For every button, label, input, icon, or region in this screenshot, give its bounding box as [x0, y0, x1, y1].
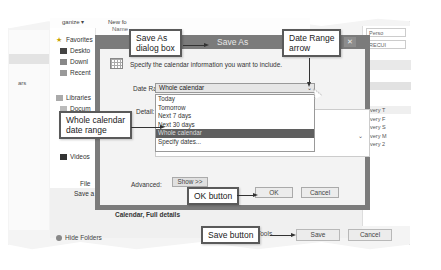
- nav-libraries[interactable]: Libraries: [56, 94, 91, 101]
- callout-ok-button: OK button: [187, 187, 239, 205]
- callout-line: [237, 195, 254, 196]
- date-range-option-next-7-days[interactable]: Next 7 days: [156, 112, 314, 121]
- arrow-down-icon: [307, 82, 311, 87]
- callout-save-button: Save button: [201, 226, 260, 244]
- nav-recent[interactable]: Recent: [60, 69, 91, 76]
- recent-icon: [60, 70, 67, 76]
- detail-label: Detail:: [136, 108, 154, 115]
- libraries-icon: [56, 95, 63, 101]
- folder-navigation-tree: ★ Favorites Deskto Downl Recent Librarie…: [50, 28, 96, 188]
- outer-nav-partial-label: ars: [18, 80, 26, 86]
- date-range-option-next-30-days[interactable]: Next 30 days: [156, 121, 314, 130]
- save-as-type-label: Save a: [74, 190, 94, 197]
- hide-folders-toggle[interactable]: Hide Folders: [56, 234, 102, 241]
- callout-date-range-arrow: Date Range arrow: [282, 29, 341, 57]
- desktop-icon: [60, 48, 67, 54]
- date-range-option-specify-dates[interactable]: Specify dates...: [156, 138, 314, 147]
- nav-desktop[interactable]: Deskto: [60, 47, 90, 54]
- arrow-right-icon: [291, 233, 296, 237]
- right-pane-field-2[interactable]: RECUI: [366, 40, 406, 49]
- show-advanced-button[interactable]: Show >>: [172, 177, 208, 187]
- videos-icon: [60, 154, 67, 160]
- right-pane-field-1[interactable]: Perso: [366, 28, 406, 37]
- calendar-icon: [110, 58, 123, 69]
- nav-favorites[interactable]: ★ Favorites: [56, 36, 93, 43]
- arrow-right-icon: [160, 125, 165, 129]
- right-pane-band: [363, 82, 411, 90]
- callout-whole-calendar-date-range: Whole calendar date range: [59, 111, 132, 139]
- callout-line: [309, 58, 310, 82]
- star-icon: ★: [56, 37, 63, 43]
- date-range-option-tomorrow[interactable]: Tomorrow: [156, 104, 314, 113]
- explorer-toolbar: ganize ▾ New fo: [62, 18, 149, 25]
- new-folder-button[interactable]: New fo: [108, 19, 127, 25]
- dialog-description: Specify the calendar information you wan…: [130, 61, 282, 68]
- right-pane-band: [363, 60, 411, 70]
- arrow-right-icon: [253, 193, 258, 197]
- downloads-icon: [60, 59, 67, 65]
- outer-navigation-pane: ars: [9, 30, 49, 230]
- dialog-cancel-button[interactable]: Cancel: [301, 187, 339, 198]
- callout-line: [270, 235, 292, 236]
- close-icon[interactable]: ✕: [344, 37, 356, 47]
- arrow-right-icon: [204, 43, 209, 47]
- advanced-label: Advanced:: [131, 181, 162, 188]
- chevron-down-icon[interactable]: ⌄: [358, 132, 363, 139]
- date-range-dropdown-list: Today Tomorrow Next 7 days Next 30 days …: [155, 94, 315, 152]
- callout-line: [183, 45, 205, 46]
- callout-save-as-dialog: Save As dialog box: [129, 29, 182, 57]
- date-range-option-today[interactable]: Today: [156, 95, 314, 104]
- save-as-dialog: Save As ✕ Specify the calendar informati…: [95, 35, 370, 210]
- callout-line: [131, 127, 161, 128]
- outer-selected-row: [9, 54, 49, 64]
- nav-videos[interactable]: Videos: [60, 153, 90, 160]
- cancel-button[interactable]: Cancel: [348, 229, 392, 241]
- organize-menu[interactable]: ganize ▾: [62, 19, 84, 25]
- save-button[interactable]: Save: [296, 229, 340, 241]
- date-range-option-whole-calendar[interactable]: Whole calendar: [156, 129, 314, 138]
- dialog-title: Save As: [217, 37, 248, 47]
- file-name-label: File: [80, 180, 90, 187]
- nav-downloads[interactable]: Downl: [60, 58, 88, 65]
- collapse-arrow-icon: [56, 235, 62, 241]
- date-range-select[interactable]: Whole calendar ⌄: [155, 83, 315, 93]
- save-as-type-value: Calendar, Full details: [115, 211, 180, 218]
- name-column-header[interactable]: Name: [112, 26, 128, 32]
- ok-button[interactable]: OK: [255, 187, 293, 198]
